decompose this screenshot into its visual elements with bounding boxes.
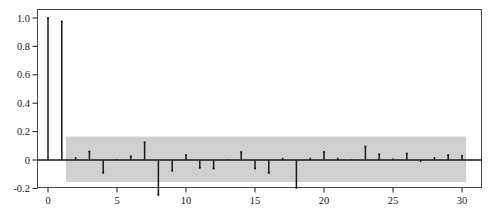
y-tick-label: 0.2 (17, 126, 30, 137)
y-tick-label: 0.4 (17, 98, 31, 109)
y-tick-label: -0.2 (13, 183, 30, 194)
acf-stem-marker (102, 172, 104, 174)
x-tick-label: 30 (457, 195, 468, 206)
acf-stem-marker (254, 167, 256, 169)
y-tick-label: 1.0 (17, 13, 30, 24)
acf-stem-marker (364, 145, 366, 147)
acf-stem-marker (130, 155, 132, 157)
x-tick-label: 5 (114, 195, 119, 206)
acf-stem-marker (295, 187, 297, 189)
x-tick-label: 25 (388, 195, 399, 206)
x-tick-label: 15 (250, 195, 261, 206)
acf-stem-marker (171, 170, 173, 172)
x-tick-label: 10 (181, 195, 192, 206)
acf-stem-marker (61, 20, 63, 22)
acf-stem-marker (406, 153, 408, 155)
acf-stem-marker (185, 154, 187, 156)
acf-stem-marker (213, 167, 215, 169)
acf-stem-marker (144, 141, 146, 143)
acf-stem-marker (240, 151, 242, 153)
acf-stem-marker (157, 194, 159, 196)
acf-stem-marker (447, 154, 449, 156)
acf-stem-marker (88, 150, 90, 152)
acf-svg-canvas: -0.200.20.40.60.81.0 051015202530 (0, 0, 491, 210)
x-tick-label: 0 (45, 195, 50, 206)
y-tick-label: 0.6 (17, 69, 30, 80)
y-tick-label: 0.8 (17, 41, 30, 52)
acf-chart: -0.200.20.40.60.81.0 051015202530 (0, 0, 491, 210)
acf-stem-marker (323, 151, 325, 153)
acf-stem-marker (199, 167, 201, 169)
acf-stem-marker (378, 153, 380, 155)
y-tick-label: 0 (25, 155, 30, 166)
acf-stem-marker (461, 155, 463, 157)
acf-stem-marker (268, 172, 270, 174)
acf-stem-marker (47, 17, 49, 19)
x-tick-label: 20 (319, 195, 330, 206)
